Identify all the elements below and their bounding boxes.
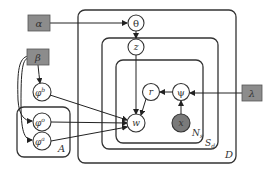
svg-text:z: z	[133, 42, 139, 52]
svg-text:α: α	[36, 18, 43, 29]
svg-text:θ: θ	[133, 18, 139, 29]
plate-N-s	[116, 60, 203, 143]
svg-text:λ: λ	[248, 88, 255, 99]
node-z: z	[128, 39, 144, 55]
node-phi-a: φa	[33, 132, 51, 150]
node-r: r	[143, 84, 160, 101]
plate-label-D: D	[224, 149, 233, 160]
svg-text:ψ: ψ	[177, 87, 185, 98]
plate-label-A: A	[57, 143, 65, 154]
graphical-model-diagram: D Sd Ns A α β λ θ z r	[0, 0, 276, 173]
edge-r-w	[141, 99, 146, 115]
edge-beta-phi-a	[21, 58, 32, 140]
edge-beta-phi-o	[18, 56, 32, 121]
node-phi-b: φb	[33, 83, 51, 101]
node-beta: β	[27, 49, 49, 65]
svg-text:w: w	[132, 118, 140, 128]
node-alpha: α	[28, 15, 50, 31]
node-x-observed: x	[172, 114, 190, 132]
plate-label-S-d: Sd	[205, 138, 215, 149]
node-psi: ψ	[173, 84, 190, 101]
node-theta: θ	[128, 15, 144, 31]
node-w: w	[127, 114, 145, 132]
svg-text:r: r	[149, 87, 154, 97]
svg-text:β: β	[34, 52, 41, 63]
edge-beta-phi-b	[38, 65, 40, 83]
node-lambda: λ	[242, 85, 262, 101]
node-phi-o: φo	[33, 113, 51, 131]
svg-text:x: x	[178, 118, 183, 128]
plate-label-N-s: Ns	[191, 128, 203, 139]
